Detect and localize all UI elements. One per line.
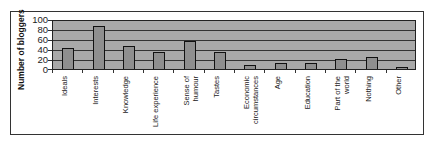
x-tickmark xyxy=(52,70,53,73)
bar-knowledge xyxy=(123,46,135,69)
x-tickmark xyxy=(204,70,205,73)
x-label-tastes: Tastes xyxy=(212,76,240,128)
x-tickmark xyxy=(143,70,144,73)
x-label-age: Age xyxy=(273,76,301,128)
x-tickmark xyxy=(295,70,296,73)
bar-nothing xyxy=(366,57,378,69)
gridline-80 xyxy=(53,30,415,31)
x-tickmark xyxy=(173,70,174,73)
x-label-ideals: Ideals xyxy=(60,76,88,128)
bar-life-experience xyxy=(153,52,165,69)
gridline-40 xyxy=(53,50,415,51)
bar-tastes xyxy=(214,52,226,69)
gridline-20 xyxy=(53,60,415,61)
y-axis-ticks: 100 80 60 40 20 0 xyxy=(26,20,48,70)
bar-age xyxy=(275,63,287,69)
x-tickmark xyxy=(113,70,114,73)
bar-education xyxy=(305,63,317,69)
x-label-knowledge: Knowledge xyxy=(121,76,149,128)
x-tickmark xyxy=(82,70,83,73)
plot-area xyxy=(52,20,416,70)
x-label-other: Other xyxy=(394,76,422,128)
x-label-life-experience: Life experience xyxy=(151,76,179,128)
x-tickmark xyxy=(355,70,356,73)
x-label-sense-of-humour: Sense of humour xyxy=(182,76,210,128)
x-label-part-of-the-world: Part of the world xyxy=(333,76,361,128)
gridline-60 xyxy=(53,40,415,41)
bar-other xyxy=(396,67,408,69)
x-tickmark xyxy=(386,70,387,73)
x-tickmark xyxy=(264,70,265,73)
bar-interests xyxy=(93,26,105,69)
x-tickmark xyxy=(234,70,235,73)
bar-economic-circumstances xyxy=(244,65,256,69)
x-label-economic-circumstances: Economic circumstances xyxy=(242,76,270,128)
x-label-interests: Interests xyxy=(91,76,119,128)
x-label-nothing: Nothing xyxy=(364,76,392,128)
x-label-education: Education xyxy=(303,76,331,128)
bar-ideals xyxy=(62,48,74,69)
bar-sense-of-humour xyxy=(184,41,196,69)
x-axis-labels: IdealsInterestsKnowledgeLife experienceS… xyxy=(52,72,416,132)
bar-part-of-the-world xyxy=(335,59,347,69)
x-tickmark xyxy=(325,70,326,73)
